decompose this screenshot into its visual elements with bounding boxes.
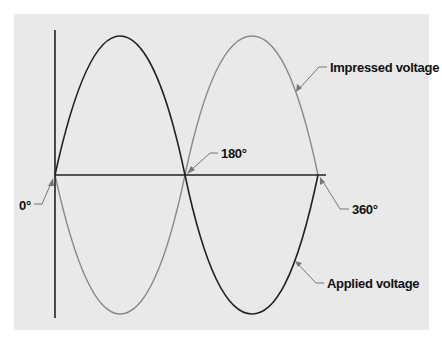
label-zero-degrees: 0° xyxy=(19,198,31,213)
sine-wave-diagram: 0° 180° 360° Impressed voltage Applied v… xyxy=(0,0,442,345)
arrowhead-applied-icon xyxy=(295,261,302,267)
label-impressed-voltage: Impressed voltage xyxy=(330,60,439,75)
label-360-degrees: 360° xyxy=(352,202,378,217)
arrow-applied-icon xyxy=(297,263,324,283)
arrow-360-icon xyxy=(322,180,349,209)
arrowhead-impressed-icon xyxy=(296,84,302,92)
arrow-impressed-icon xyxy=(298,67,327,90)
arrowhead-zero-icon xyxy=(48,178,54,186)
label-180-degrees: 180° xyxy=(221,146,247,161)
label-applied-voltage: Applied voltage xyxy=(327,276,419,291)
